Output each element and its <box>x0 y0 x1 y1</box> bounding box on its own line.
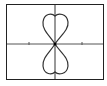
origin-point <box>54 43 57 46</box>
graph-plot <box>0 0 107 86</box>
